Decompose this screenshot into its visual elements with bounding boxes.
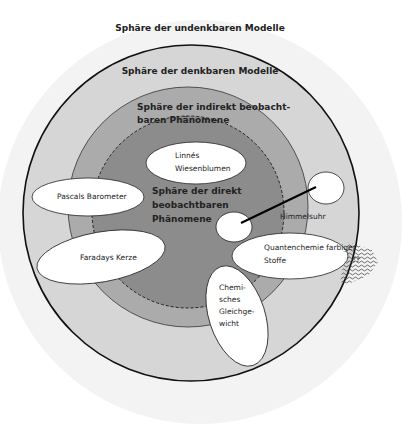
label-faraday: Faradays Kerze	[80, 253, 137, 262]
label-gleichgewicht-2: sches	[219, 295, 240, 304]
label-linne-2: Wiesenblumen	[175, 164, 231, 173]
model-quanten-ellipse[interactable]	[232, 233, 348, 279]
sphere-diagram	[0, 0, 402, 426]
label-unknown: ??	[352, 255, 360, 264]
label-quanten-1: Quantenchemie farbiger	[264, 243, 356, 252]
label-indirekt-2: baren Phänomene	[137, 115, 229, 125]
model-linne-ellipse[interactable]	[146, 142, 246, 184]
label-direkt-1: Sphäre der direkt	[152, 186, 242, 196]
label-himmelsuhr: Himmelsuhr	[280, 212, 326, 221]
label-indirekt-1: Sphäre der indirekt beobacht-	[137, 102, 290, 112]
label-quanten-2: Stoffe	[264, 256, 286, 265]
label-linne-1: Linnés	[175, 151, 199, 160]
label-direkt-3: Phänomene	[152, 214, 212, 224]
label-gleichgewicht-1: Chemi-	[219, 283, 246, 292]
label-pascal: Pascals Barometer	[57, 192, 127, 201]
label-gleichgewicht-3: Gleichge-	[219, 307, 255, 316]
label-denkbar: Sphäre der denkbaren Modelle	[100, 66, 300, 76]
label-gleichgewicht-4: wicht	[219, 319, 239, 328]
label-undenkbar: Sphäre der undenkbaren Modelle	[100, 23, 300, 33]
model-himmelsuhr-inner[interactable]	[216, 212, 252, 242]
label-direkt-2: beobachtbaren	[152, 200, 229, 210]
